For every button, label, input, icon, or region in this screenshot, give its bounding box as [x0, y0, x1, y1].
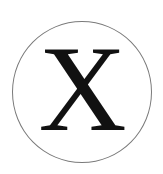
x-circle-badge: X: [0, 0, 163, 174]
x-letter-icon: X: [0, 0, 163, 174]
